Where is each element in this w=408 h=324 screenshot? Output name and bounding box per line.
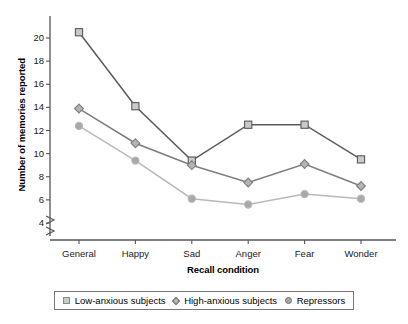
data-point-marker <box>188 195 195 202</box>
chart-legend: Low-anxious subjects High-anxious subjec… <box>54 291 354 310</box>
legend-square-marker-icon <box>63 297 70 304</box>
x-tick-label: Anger <box>236 249 261 259</box>
legend-item-repressors: Repressors <box>285 296 346 306</box>
data-point-marker <box>75 104 84 113</box>
data-point-marker <box>245 121 252 128</box>
plot-area <box>0 0 408 324</box>
legend-item-high-anxious: High-anxious subjects <box>173 296 277 306</box>
axes <box>46 16 396 244</box>
series-line-2 <box>79 126 361 205</box>
data-point-marker <box>357 156 364 163</box>
data-point-marker <box>301 190 308 197</box>
x-tick-label: Sad <box>183 249 200 259</box>
data-point-marker <box>301 121 308 128</box>
data-point-marker <box>75 122 82 129</box>
series-layer <box>75 29 366 208</box>
x-axis-title: Recall condition <box>50 264 396 275</box>
x-tick-label: Wonder <box>344 249 377 259</box>
series-line-0 <box>79 32 361 160</box>
legend-label-low-anxious: Low-anxious subjects <box>75 296 166 306</box>
chart-figure: Number of memories reported 468101214161… <box>0 0 408 324</box>
data-point-marker <box>131 139 140 148</box>
x-tick-label: General <box>62 249 96 259</box>
data-point-marker <box>244 178 253 187</box>
legend-diamond-marker-icon <box>172 296 180 304</box>
data-point-marker <box>357 195 364 202</box>
data-point-marker <box>357 182 366 191</box>
data-point-marker <box>300 160 309 169</box>
x-tick-label: Happy <box>122 249 149 259</box>
legend-label-repressors: Repressors <box>297 296 346 306</box>
legend-circle-marker-icon <box>285 297 292 304</box>
series-line-1 <box>79 109 361 186</box>
data-point-marker <box>132 157 139 164</box>
legend-item-low-anxious: Low-anxious subjects <box>63 296 166 306</box>
x-tick-label: Fear <box>295 249 315 259</box>
legend-label-high-anxious: High-anxious subjects <box>184 296 277 306</box>
data-point-marker <box>245 201 252 208</box>
data-point-marker <box>75 29 82 36</box>
data-point-marker <box>132 103 139 110</box>
